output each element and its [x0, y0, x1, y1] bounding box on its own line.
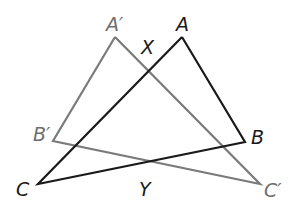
label-y: Y [139, 178, 152, 200]
label-b: B [251, 126, 264, 148]
label-a: A [174, 13, 189, 35]
geometry-diagram: A B C A′ B′ C′ X Y [0, 0, 296, 211]
label-c: C [16, 178, 30, 200]
triangle-a-prime-b-prime-c-prime [53, 37, 260, 184]
triangle-abc [38, 37, 245, 184]
label-a-prime: A′ [104, 13, 124, 35]
label-x: X [140, 36, 155, 58]
triangle-original-outline [38, 37, 245, 184]
label-b-prime: B′ [33, 123, 51, 145]
triangle-image-outline [53, 37, 260, 184]
label-c-prime: C′ [264, 179, 282, 201]
